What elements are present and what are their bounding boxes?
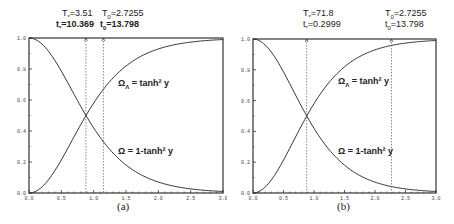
- x-tick-label: 3.0: [218, 196, 227, 202]
- y-tick-label: 0.4: [17, 129, 26, 135]
- omega-matter-label-b: Ω = 1-tanh² y: [338, 146, 393, 156]
- omega-matter-curve: [29, 38, 223, 191]
- x-tick-label: 2.5: [401, 196, 410, 202]
- y-tick-label: 0.6: [17, 98, 26, 104]
- y-tick-label: 0.6: [241, 99, 250, 105]
- x-tick-label: 0.5: [57, 196, 66, 202]
- omega-lambda-label-b: ΩΛ = tanh² y: [338, 76, 389, 88]
- plot-frame: [29, 38, 223, 193]
- marker1-t-label-a: t*=10.369: [56, 19, 94, 33]
- y-tick-label: 0.0: [17, 191, 26, 197]
- x-tick-label: 1.0: [309, 196, 318, 202]
- y-tick-label: 1.0: [17, 36, 26, 42]
- y-tick-label: 1.0: [241, 37, 250, 43]
- y-tick-label: 0.8: [241, 68, 250, 74]
- omega-lambda-curve: [253, 41, 436, 193]
- x-tick-label: 2.0: [154, 196, 163, 202]
- y-tick-label: 0.2: [241, 160, 250, 166]
- omega-matter-label-a: Ω = 1-tanh² y: [118, 146, 173, 156]
- panel-a: 0.00.51.01.52.02.53.00.00.20.40.60.81.0 …: [0, 0, 227, 224]
- caption-a: (a): [117, 200, 129, 212]
- y-tick-label: 0.2: [17, 160, 26, 166]
- x-tick-label: 3.0: [431, 196, 440, 202]
- x-tick-label: 2.5: [186, 196, 195, 202]
- x-tick-label: 2.0: [370, 196, 379, 202]
- marker2-t-label-b: t0=13.798: [385, 19, 424, 33]
- marker1-t-label-b: t*=0.2999: [303, 19, 341, 33]
- plot-b: 0.00.51.01.52.02.53.00.00.20.40.60.81.0: [227, 0, 454, 224]
- y-tick-label: 0.0: [241, 191, 250, 197]
- y-tick-label: 0.4: [241, 129, 250, 135]
- plot-frame: [253, 39, 436, 193]
- omega-lambda-curve: [29, 40, 223, 193]
- x-tick-label: 1.0: [89, 196, 98, 202]
- omega-lambda-label-a: ΩΛ = tanh² y: [118, 78, 169, 90]
- plot-a: 0.00.51.01.52.02.53.00.00.20.40.60.81.0: [0, 0, 227, 224]
- marker2-t-label-a: t0=13.798: [100, 19, 139, 33]
- x-tick-label: 0.5: [279, 196, 288, 202]
- caption-b: (b): [337, 200, 350, 212]
- y-tick-label: 0.8: [17, 67, 26, 73]
- panel-b: 0.00.51.01.52.02.53.00.00.20.40.60.81.0 …: [227, 0, 454, 224]
- omega-matter-curve: [253, 39, 436, 191]
